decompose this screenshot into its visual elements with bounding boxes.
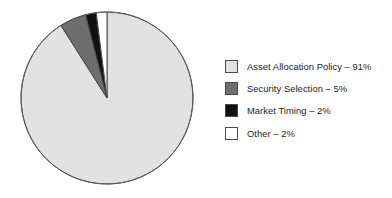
- pie-svg: [19, 6, 195, 192]
- legend-label-security-selection: Security Selection – 5%: [247, 83, 347, 94]
- legend-item-security-selection[interactable]: Security Selection – 5%: [225, 77, 392, 99]
- pie-chart: [19, 6, 195, 192]
- legend-swatch-asset-allocation-policy: [225, 60, 238, 73]
- chart-legend: Asset Allocation Policy – 91% Security S…: [225, 55, 392, 144]
- pie-slices: [21, 12, 193, 184]
- legend-label-asset-allocation-policy: Asset Allocation Policy – 91%: [247, 61, 371, 72]
- legend-item-market-timing[interactable]: Market Timing – 2%: [225, 100, 392, 122]
- chart-canvas: Asset Allocation Policy – 91% Security S…: [0, 0, 392, 198]
- legend-swatch-other: [225, 127, 238, 140]
- legend-item-other[interactable]: Other – 2%: [225, 122, 392, 144]
- legend-swatch-security-selection: [225, 82, 238, 95]
- legend-item-asset-allocation-policy[interactable]: Asset Allocation Policy – 91%: [225, 55, 392, 77]
- legend-swatch-market-timing: [225, 104, 238, 117]
- legend-label-market-timing: Market Timing – 2%: [247, 105, 331, 116]
- legend-label-other: Other – 2%: [247, 128, 295, 139]
